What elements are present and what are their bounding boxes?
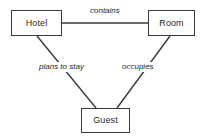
entity-label-room: Room bbox=[159, 19, 183, 28]
entity-label-hotel: Hotel bbox=[26, 19, 48, 28]
entity-label-guest: Guest bbox=[93, 116, 118, 125]
entity-node-room[interactable]: Room bbox=[148, 10, 195, 36]
entity-node-hotel[interactable]: Hotel bbox=[11, 10, 62, 36]
entity-relationship-diagram: Hotel Room Guest contains plans to stay … bbox=[0, 0, 205, 138]
edge-room-guest bbox=[117, 36, 170, 108]
entity-node-guest[interactable]: Guest bbox=[81, 108, 130, 133]
edge-label-occupies: occupies bbox=[120, 62, 156, 72]
edge-label-contains: contains bbox=[88, 6, 122, 16]
edge-label-plans-to-stay: plans to stay bbox=[37, 62, 86, 72]
edge-hotel-guest bbox=[37, 36, 96, 108]
